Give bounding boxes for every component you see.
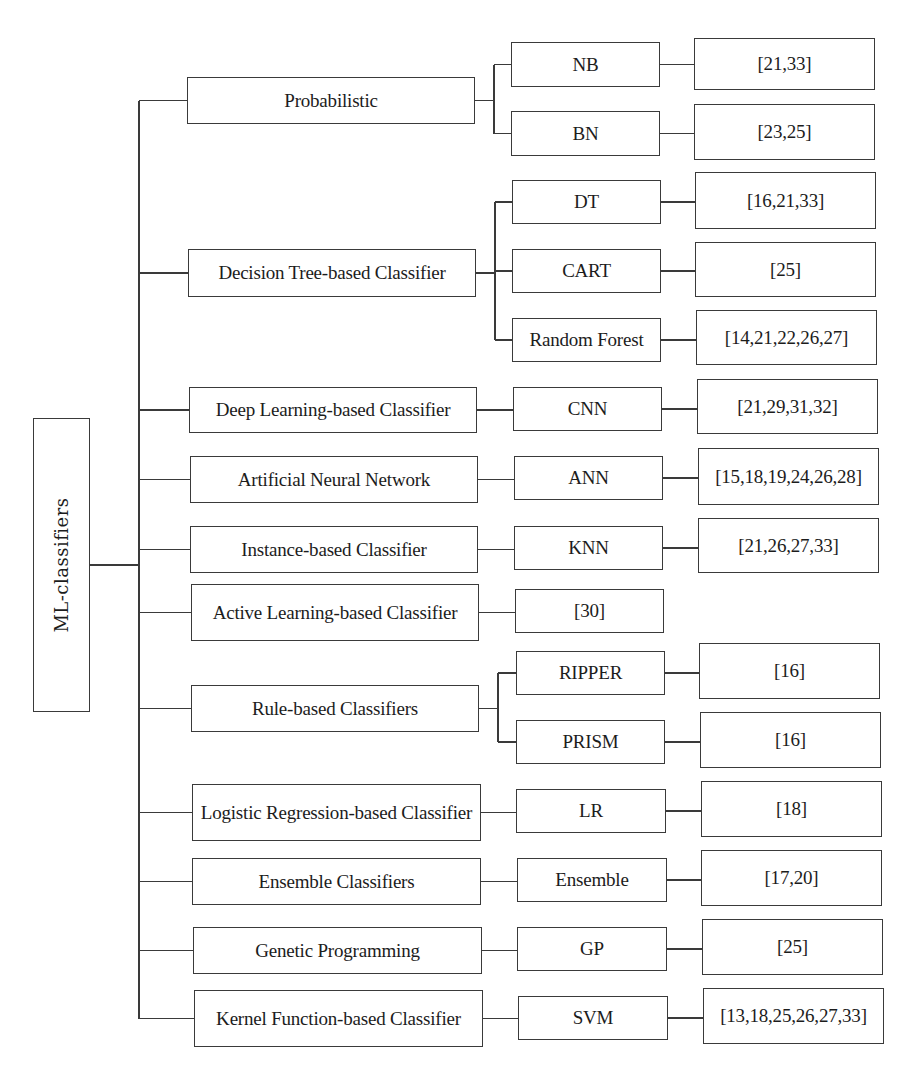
- connector-line: [661, 270, 695, 271]
- connector-line: [668, 1017, 703, 1018]
- connector-line: [667, 948, 702, 949]
- connector-line: [481, 812, 516, 813]
- connector-line: [665, 672, 699, 673]
- connector-line: [476, 272, 495, 273]
- connector-line: [663, 547, 698, 548]
- connector-line: [139, 881, 192, 882]
- method-gp: GP: [517, 927, 667, 971]
- references-gp: [25]: [702, 919, 883, 975]
- category-active-learning-based-classifier-label: Active Learning-based Classifier: [211, 603, 460, 623]
- references-random-forest: [14,21,22,26,27]: [696, 310, 877, 365]
- method-knn: KNN: [514, 526, 663, 570]
- references-lr: [18]: [701, 781, 882, 837]
- references-prism: [16]: [700, 712, 881, 768]
- references-ensemble: [17,20]: [701, 850, 882, 906]
- method-bn: BN: [511, 111, 660, 156]
- method-random-forest: Random Forest: [512, 318, 661, 362]
- method-cart: CART: [512, 249, 661, 293]
- connector-line: [139, 950, 193, 951]
- connector-line: [661, 339, 696, 340]
- method-ann-label: ANN: [566, 468, 611, 488]
- references-svm-label: [13,18,25,26,27,33]: [718, 1006, 869, 1026]
- method-ensemble: Ensemble: [517, 858, 667, 902]
- references-ripper-label: [16]: [772, 661, 807, 681]
- references-cnn-label: [21,29,31,32]: [735, 397, 839, 417]
- connector-line: [494, 133, 511, 134]
- category-instance-based-classifier-label: Instance-based Classifier: [239, 540, 428, 560]
- category-deep-learning-based-classifier-label: Deep Learning-based Classifier: [214, 400, 453, 420]
- references-dt-label: [16,21,33]: [745, 191, 826, 211]
- connector-line: [139, 479, 190, 480]
- connector-line: [661, 201, 695, 202]
- connector-line: [482, 950, 517, 951]
- method-cart-label: CART: [560, 261, 613, 281]
- category-decision-tree-based-classifier-label: Decision Tree-based Classifier: [216, 263, 447, 283]
- method-30: [30]: [515, 589, 664, 633]
- connector-line: [478, 549, 514, 550]
- connector-line: [478, 479, 514, 480]
- connector-line: [139, 1018, 194, 1019]
- connector-line: [494, 64, 511, 65]
- category-ensemble-classifiers: Ensemble Classifiers: [192, 858, 481, 905]
- references-gp-label: [25]: [775, 937, 810, 957]
- method-ann: ANN: [514, 456, 663, 500]
- method-nb-label: NB: [571, 55, 601, 75]
- connector-line: [483, 1018, 518, 1019]
- references-cnn: [21,29,31,32]: [697, 379, 878, 434]
- connector-line: [139, 612, 191, 613]
- references-cart-label: [25]: [768, 260, 803, 280]
- method-ripper-label: RIPPER: [557, 663, 624, 683]
- connector-line: [667, 879, 701, 880]
- connector-line: [477, 409, 513, 410]
- connector-line: [498, 741, 516, 742]
- category-probabilistic-label: Probabilistic: [282, 91, 379, 111]
- references-svm: [13,18,25,26,27,33]: [703, 988, 884, 1044]
- references-bn: [23,25]: [694, 104, 875, 160]
- method-dt-label: DT: [572, 192, 601, 212]
- references-bn-label: [23,25]: [755, 122, 813, 142]
- references-random-forest-label: [14,21,22,26,27]: [723, 328, 850, 348]
- method-svm: SVM: [518, 996, 668, 1040]
- connector-line: [660, 64, 694, 65]
- method-bn-label: BN: [571, 124, 601, 144]
- references-cart: [25]: [695, 242, 876, 297]
- connector-line: [139, 812, 192, 813]
- method-dt: DT: [512, 180, 661, 224]
- category-artificial-neural-network-label: Artificial Neural Network: [236, 470, 432, 490]
- category-rule-based-classifiers-label: Rule-based Classifiers: [250, 699, 420, 719]
- connector-line: [662, 408, 697, 409]
- connector-line: [495, 270, 512, 271]
- references-lr-label: [18]: [774, 799, 809, 819]
- references-dt: [16,21,33]: [695, 172, 876, 229]
- connector-line: [498, 672, 516, 673]
- category-genetic-programming: Genetic Programming: [193, 927, 482, 974]
- category-artificial-neural-network: Artificial Neural Network: [190, 456, 478, 503]
- connector-line: [139, 409, 189, 410]
- references-knn: [21,26,27,33]: [698, 518, 879, 573]
- method-knn-label: KNN: [566, 538, 611, 558]
- connector-line: [139, 100, 187, 101]
- category-ensemble-classifiers-label: Ensemble Classifiers: [257, 872, 417, 892]
- method-prism-label: PRISM: [560, 732, 620, 752]
- connector-line: [481, 881, 517, 882]
- connector-line: [479, 708, 498, 709]
- method-lr-label: LR: [577, 801, 605, 821]
- root-node: ML-classifiers: [33, 418, 90, 712]
- references-ensemble-label: [17,20]: [762, 868, 820, 888]
- connector-line: [665, 741, 700, 742]
- method-ripper: RIPPER: [516, 651, 665, 695]
- category-logistic-regression-based-classifier-label: Logistic Regression-based Classifier: [199, 803, 474, 823]
- connector-line: [139, 272, 188, 273]
- category-logistic-regression-based-classifier: Logistic Regression-based Classifier: [192, 784, 481, 841]
- method-random-forest-label: Random Forest: [527, 330, 645, 350]
- root-node-label: ML-classifiers: [52, 495, 72, 634]
- method-gp-label: GP: [578, 939, 606, 959]
- connector-line: [495, 339, 512, 340]
- references-nb-label: [21,33]: [755, 54, 813, 74]
- category-kernel-function-based-classifier-label: Kernel Function-based Classifier: [214, 1009, 463, 1029]
- method-cnn: CNN: [513, 387, 662, 431]
- references-prism-label: [16]: [773, 730, 808, 750]
- connector-line: [475, 100, 494, 101]
- references-ann-label: [15,18,19,24,26,28]: [713, 467, 864, 487]
- method-svm-label: SVM: [571, 1008, 616, 1028]
